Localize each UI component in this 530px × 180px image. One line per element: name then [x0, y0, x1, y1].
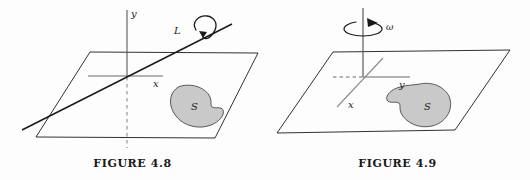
label-line-L: L	[173, 25, 181, 36]
label-omega: ω	[386, 22, 394, 32]
figure-4-8-drawing: y x L S	[0, 0, 265, 155]
plane-parallelogram	[36, 52, 258, 138]
label-y-axis: y	[130, 8, 137, 19]
label-x-axis: x	[153, 78, 159, 89]
figure-caption-4-9: FIGURE 4.9	[265, 157, 530, 170]
figure-4-9-drawing: ω y x S	[265, 0, 530, 155]
region-s-blob	[387, 83, 451, 126]
x-axis	[337, 58, 383, 107]
label-region-s: S	[424, 101, 431, 112]
figure-panel-4-8: y x L S FIGURE 4.8	[0, 0, 265, 180]
figure-panel-4-9: ω y x S FIGURE 4.9	[265, 0, 530, 180]
label-y-axis: y	[398, 79, 405, 90]
rotation-curl-icon	[194, 16, 216, 39]
figure-sheet: y x L S FIGURE 4.8 ω y	[0, 0, 530, 180]
label-x-axis: x	[348, 99, 354, 110]
label-region-s: S	[191, 101, 198, 112]
omega-arrowhead-icon	[367, 18, 378, 27]
figure-caption-4-8: FIGURE 4.8	[0, 157, 265, 170]
